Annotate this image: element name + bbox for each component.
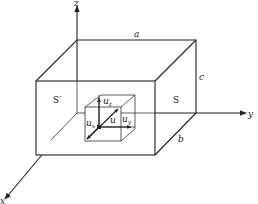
dimension-a-label: a <box>134 29 139 39</box>
x-axis-label: x <box>0 196 5 204</box>
dimension-b-label: b <box>178 134 184 144</box>
z-axis-label: z <box>73 0 79 8</box>
box-diagram: z y x a c b S′ S uz u uy ux <box>0 0 258 204</box>
y-axis-label: y <box>247 109 254 119</box>
face-s-prime-label: S′ <box>53 95 61 105</box>
dimension-c-label: c <box>199 72 204 82</box>
face-s-label: S <box>173 95 179 105</box>
u-label: u <box>110 115 116 125</box>
